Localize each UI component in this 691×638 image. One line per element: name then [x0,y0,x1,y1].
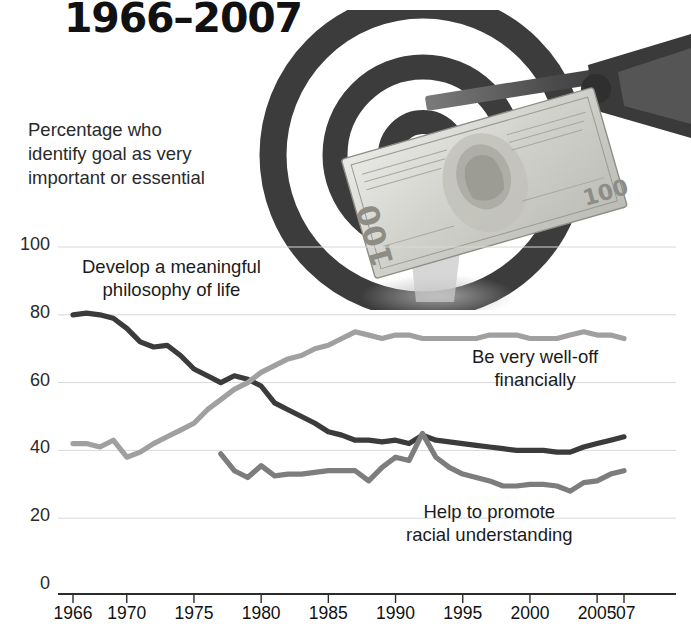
x-axis-tick-label: 2000 [500,603,560,624]
x-axis-tick-label: 1970 [97,603,157,624]
x-axis-tick-label: 1985 [298,603,358,624]
series-label-racial: Help to promote racial understanding [406,500,573,546]
x-axis-tick-label: 1975 [164,603,224,624]
x-axis [58,594,676,603]
y-axis-tick-label: 60 [4,370,50,391]
series-line [221,433,624,491]
series-label-welloff: Be very well-off financially [472,345,598,391]
infographic-root: 100 100 1966–2007 Percentage [0,0,691,638]
x-axis-tick-label: 1980 [231,603,291,624]
x-axis-tick-label: 1966 [43,603,103,624]
series-label-philosophy: Develop a meaningful philosophy of life [82,255,261,301]
x-axis-tick-label: 1995 [433,603,493,624]
y-axis-tick-label: 80 [4,302,50,323]
line-chart [0,0,691,638]
y-axis-tick-label: 40 [4,437,50,458]
x-axis-ticks [73,594,624,603]
x-axis-tick-label: '07 [594,603,654,624]
y-axis-tick-label: 100 [4,234,50,255]
y-axis-tick-label: 20 [4,505,50,526]
x-axis-tick-label: 1990 [366,603,426,624]
series-lines [73,313,624,491]
y-axis-tick-label: 0 [4,573,50,594]
